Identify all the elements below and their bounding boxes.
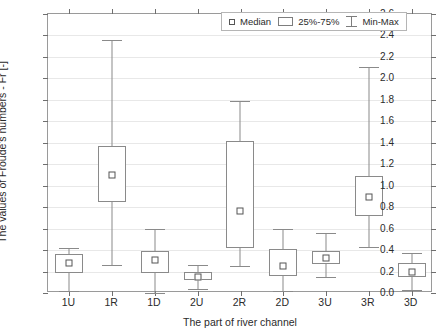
max-cap [102,40,122,41]
lower-whisker [411,277,412,290]
median-marker [109,171,116,178]
max-cap [188,265,208,266]
max-cap [230,101,250,102]
x-tick-label-1u: 1U [62,296,75,308]
legend-label-quartiles: 25%-75% [298,16,339,27]
lower-whisker [112,202,113,265]
y-tick-label: 2.2 [380,50,394,61]
lower-whisker [197,280,198,289]
min-cap [102,265,122,266]
legend-label-median: Median [240,16,271,27]
y-tick-label: 0.4 [380,244,394,255]
median-marker-icon [229,19,235,25]
x-tick-label-1d: 1D [147,296,160,308]
upper-whisker [154,229,155,252]
x-axis-title: The part of river channel [183,316,297,328]
max-cap [359,67,379,68]
lower-whisker [326,264,327,277]
min-cap [273,291,293,292]
max-cap [316,233,336,234]
y-axis-title: The values of Froude's numbers - Fr [-] [0,61,8,243]
y-tick [43,293,48,294]
box-plot-2d [262,14,305,291]
upper-whisker [411,253,412,263]
y-tick-label: 0.8 [380,201,394,212]
y-tick-label: 0.6 [380,222,394,233]
y-tick-label: 1.4 [380,136,394,147]
max-cap [402,253,422,254]
max-cap [273,229,293,230]
lower-whisker [154,273,155,293]
minmax-whisker-icon [346,16,357,27]
min-cap [188,289,208,290]
lower-whisker [69,273,70,291]
box-plot-1d [134,14,177,291]
x-tick-label-3u: 3U [318,296,331,308]
x-tick-label-3r: 3R [361,296,374,308]
upper-whisker [368,67,369,176]
box-plot-3u [305,14,348,291]
median-marker [66,259,73,266]
box-plot-2r [219,14,262,291]
chart-legend: Median 25%-75% Min-Max [221,12,407,31]
quartile-box [226,141,254,248]
lower-whisker [283,276,284,291]
box-plot-1u [48,14,91,291]
x-tick-label-2u: 2U [190,296,203,308]
min-cap [59,291,79,292]
min-cap [316,277,336,278]
upper-whisker [326,233,327,251]
legend-label-minmax: Min-Max [362,16,398,27]
box-plot-2u [176,14,219,291]
lower-whisker [240,248,241,266]
upper-whisker [283,229,284,249]
upper-whisker [112,40,113,146]
median-marker [408,268,415,275]
median-marker [365,194,372,201]
max-cap [59,248,79,249]
y-tick-label: 1.6 [380,115,394,126]
y-tick-label: 1.0 [380,179,394,190]
y-tick-label: 2.0 [380,72,394,83]
boxplot-figure: The values of Froude's numbers - Fr [-] … [0,0,446,335]
x-tick-label-3d: 3D [404,296,417,308]
min-cap [230,266,250,267]
median-marker [280,263,287,270]
legend-item-quartiles: 25%-75% [278,16,339,27]
legend-item-median: Median [229,16,271,27]
median-marker [151,256,158,263]
quartile-box-icon [278,17,293,26]
min-cap [145,293,165,294]
median-marker [194,273,201,280]
median-marker [323,254,330,261]
y-tick-label: 1.8 [380,93,394,104]
upper-whisker [240,101,241,141]
y-tick-label: 0.2 [380,265,394,276]
legend-item-minmax: Min-Max [346,16,398,27]
x-tick-label-2r: 2R [233,296,246,308]
x-tick-label-2d: 2D [276,296,289,308]
plot-area [47,13,432,292]
min-cap [359,247,379,248]
max-cap [145,229,165,230]
x-tick-label-1r: 1R [104,296,117,308]
box-plot-3d [390,14,433,291]
median-marker [237,208,244,215]
lower-whisker [368,216,369,247]
y-tick-label: 0.0 [380,287,394,298]
y-tick-label: 1.2 [380,158,394,169]
box-plot-1r [91,14,134,291]
y-tick-right [431,293,436,294]
min-cap [402,290,422,291]
